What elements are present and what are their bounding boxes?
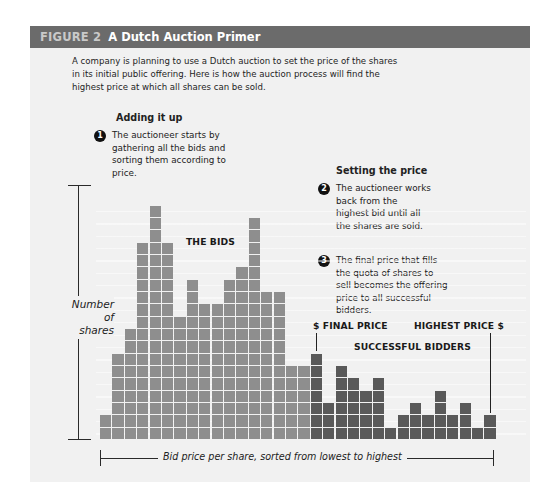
y-axis-bottom-cap (68, 439, 91, 440)
successful-bid-cell (360, 391, 371, 402)
successful-bid-cell (336, 403, 347, 414)
successful-bid-cell (373, 378, 384, 389)
bar-column (286, 365, 298, 439)
bid-share-cell (224, 391, 235, 402)
bid-share-cell (274, 329, 285, 340)
final-price-marker (316, 333, 317, 351)
bid-share-cell (174, 341, 185, 352)
bid-share-cell (249, 267, 260, 278)
successful-bidders-label: SUCCESSFUL BIDDERS (354, 341, 471, 352)
bid-share-cell (236, 354, 247, 365)
bid-share-cell (224, 415, 235, 426)
successful-bid-cell (323, 428, 334, 439)
bid-share-cell (187, 341, 198, 352)
bid-share-cell (224, 403, 235, 414)
bid-share-cell (274, 341, 285, 352)
bid-share-cell (187, 280, 198, 291)
bid-share-cell (150, 378, 161, 389)
bid-share-cell (174, 366, 185, 377)
bid-share-cell (261, 428, 272, 439)
successful-bid-cell (385, 428, 396, 439)
bid-share-cell (286, 378, 297, 389)
bid-share-cell (174, 428, 185, 439)
bid-share-cell (261, 378, 272, 389)
bid-share-cell (162, 366, 173, 377)
successful-bid-cell (348, 378, 359, 389)
bid-share-cell (187, 292, 198, 303)
successful-bid-cell (311, 403, 322, 414)
bid-share-cell (174, 329, 185, 340)
bid-share-cell (298, 391, 309, 402)
bid-share-cell (249, 378, 260, 389)
bid-share-cell (150, 280, 161, 291)
bid-share-cell (187, 403, 198, 414)
successful-bid-cell (422, 415, 433, 426)
bid-share-cell (162, 391, 173, 402)
successful-bid-cell (447, 428, 458, 439)
bid-share-cell (212, 391, 223, 402)
successful-bid-cell (435, 403, 446, 414)
bid-share-cell (187, 391, 198, 402)
bid-share-cell (236, 267, 247, 278)
bid-share-cell (274, 304, 285, 315)
bid-share-cell (150, 230, 161, 241)
bid-share-cell (286, 415, 297, 426)
bid-share-cell (224, 329, 235, 340)
bid-share-cell (212, 403, 223, 414)
bid-share-cell (236, 292, 247, 303)
bid-share-cell (187, 304, 198, 315)
bid-share-cell (112, 415, 123, 426)
bid-share-cell (137, 243, 148, 254)
bid-share-cell (298, 366, 309, 377)
bid-share-cell (162, 267, 173, 278)
bid-share-cell (137, 304, 148, 315)
bid-share-cell (162, 317, 173, 328)
bid-share-cell (162, 428, 173, 439)
bid-share-cell (249, 341, 260, 352)
bid-share-cell (236, 366, 247, 377)
bid-share-cell (212, 366, 223, 377)
bid-share-cell (174, 415, 185, 426)
bid-share-cell (112, 428, 123, 439)
bid-share-cell (137, 428, 148, 439)
bid-share-cell (137, 255, 148, 266)
bid-share-cell (137, 292, 148, 303)
bid-share-cell (249, 366, 260, 377)
bid-share-cell (261, 317, 272, 328)
bid-share-cell (236, 378, 247, 389)
bar-column (484, 414, 496, 439)
bid-share-cell (236, 403, 247, 414)
bid-share-cell (286, 366, 297, 377)
bar-column (125, 328, 137, 439)
bid-share-cell (224, 304, 235, 315)
bid-share-cell (286, 403, 297, 414)
bid-share-cell (274, 317, 285, 328)
bid-share-cell (212, 415, 223, 426)
bid-share-cell (137, 366, 148, 377)
y-axis-label: Number of shares (66, 296, 114, 339)
bar-column (410, 402, 422, 439)
successful-bid-cell (373, 403, 384, 414)
bid-share-cell (199, 341, 210, 352)
bid-share-cell (112, 403, 123, 414)
bid-share-cell (162, 354, 173, 365)
bar-column (360, 390, 372, 439)
bid-share-cell (187, 354, 198, 365)
bid-share-cell (212, 354, 223, 365)
bid-bars (100, 180, 500, 439)
bar-column (348, 377, 360, 439)
bid-share-cell (286, 391, 297, 402)
bid-share-cell (236, 304, 247, 315)
successful-bid-cell (360, 428, 371, 439)
bid-share-cell (150, 267, 161, 278)
bid-share-cell (137, 329, 148, 340)
bid-share-cell (261, 366, 272, 377)
bid-share-cell (162, 341, 173, 352)
bid-share-cell (100, 428, 111, 439)
bid-share-cell (224, 317, 235, 328)
bid-share-cell (137, 317, 148, 328)
bar-column (336, 365, 348, 439)
y-axis-label-line1: Number (66, 298, 114, 311)
bid-share-cell (224, 378, 235, 389)
bid-share-cell (199, 428, 210, 439)
